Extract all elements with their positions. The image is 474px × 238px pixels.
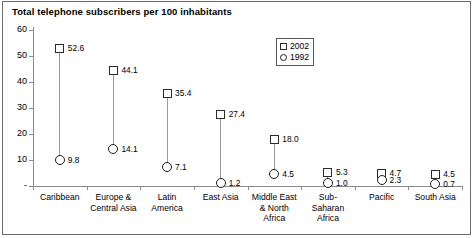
data-value-label-2002: 4.5	[443, 170, 455, 179]
chart-figure: Total telephone subscribers per 100 inha…	[0, 0, 474, 238]
plot-area: -102030405060 CaribbeanEurope & Central …	[0, 0, 474, 238]
legend-label: 2002	[290, 42, 309, 51]
data-value-label-2002: 5.3	[336, 168, 348, 177]
series-connector-line	[220, 115, 221, 183]
data-value-label-1992: 4.5	[282, 170, 294, 179]
data-point-marker-1992	[269, 169, 279, 179]
y-axis-line	[33, 27, 34, 186]
data-point-marker-2002	[163, 89, 172, 98]
x-axis-category-label: Pacific	[355, 192, 409, 203]
y-tick-mark	[29, 82, 34, 83]
x-tick-mark	[140, 186, 141, 190]
y-tick-label-text: 20	[3, 129, 27, 138]
circle-marker-icon	[280, 54, 287, 61]
data-value-label-2002: 52.6	[68, 44, 84, 53]
y-tick-label-text: 40	[3, 77, 27, 86]
data-value-label-1992: 2.3	[390, 176, 402, 185]
data-point-marker-1992	[108, 144, 118, 154]
data-value-label-1992: 1.0	[336, 179, 348, 188]
x-axis-category-label: South Asia	[408, 192, 462, 203]
x-axis-category-label: Caribbean	[33, 192, 87, 203]
y-tick-mark	[29, 160, 34, 161]
data-value-label-1992: 14.1	[121, 145, 137, 154]
data-value-label-2002: 44.1	[121, 66, 137, 75]
y-tick-label: 50	[0, 51, 27, 61]
y-tick-mark	[29, 56, 34, 57]
data-point-marker-1992	[377, 175, 387, 185]
y-tick-label: 30	[0, 103, 27, 113]
y-tick-label-text: 50	[3, 51, 27, 60]
y-tick-label-text: 10	[3, 155, 27, 164]
x-tick-mark	[301, 186, 302, 190]
x-tick-mark	[462, 186, 463, 190]
data-value-label-2002: 18.0	[282, 135, 298, 144]
data-point-marker-1992	[430, 179, 440, 189]
x-axis-category-label: East Asia	[194, 192, 248, 203]
data-point-marker-2002	[55, 44, 64, 53]
data-point-marker-2002	[216, 110, 225, 119]
data-value-label-2002: 35.4	[175, 89, 191, 98]
x-axis-category-label: Latin America	[140, 192, 194, 213]
data-point-marker-2002	[270, 135, 279, 144]
y-tick-label: 60	[0, 25, 27, 35]
y-tick-label: -	[0, 181, 27, 191]
legend: 2002 1992	[276, 38, 314, 66]
x-tick-mark	[355, 186, 356, 190]
data-point-marker-2002	[431, 170, 440, 179]
x-axis-category-label: Sub- Saharan Africa	[301, 192, 355, 224]
data-value-label-2002: 27.4	[229, 110, 245, 119]
legend-item-1992: 1992	[280, 52, 309, 63]
data-point-marker-2002	[323, 168, 332, 177]
data-value-label-1992: 9.8	[68, 156, 80, 165]
x-axis-category-label: Middle East & North Africa	[248, 192, 302, 224]
series-connector-line	[113, 71, 114, 149]
data-point-marker-1992	[162, 162, 172, 172]
y-tick-mark	[29, 30, 34, 31]
x-axis-category-label: Europe & Central Asia	[87, 192, 141, 213]
square-marker-icon	[280, 43, 287, 50]
y-tick-label: 20	[0, 129, 27, 139]
x-tick-mark	[33, 186, 34, 190]
y-tick-label-text: 60	[3, 25, 27, 34]
x-tick-mark	[248, 186, 249, 190]
x-tick-mark	[194, 186, 195, 190]
y-tick-mark	[29, 108, 34, 109]
legend-item-2002: 2002	[280, 41, 309, 52]
data-point-marker-2002	[109, 66, 118, 75]
y-tick-mark	[29, 134, 34, 135]
series-connector-line	[59, 49, 60, 161]
data-value-label-1992: 1.2	[229, 179, 241, 188]
y-tick-label: 40	[0, 77, 27, 87]
y-tick-label-text: 30	[3, 103, 27, 112]
data-point-marker-1992	[55, 155, 65, 165]
y-tick-label-text: -	[3, 181, 27, 190]
x-tick-mark	[87, 186, 88, 190]
legend-label: 1992	[290, 53, 309, 62]
y-tick-label: 10	[0, 155, 27, 165]
data-value-label-1992: 7.1	[175, 163, 187, 172]
data-value-label-1992: 0.7	[443, 180, 455, 189]
series-connector-line	[167, 94, 168, 168]
data-point-marker-1992	[216, 178, 226, 188]
x-tick-mark	[408, 186, 409, 190]
